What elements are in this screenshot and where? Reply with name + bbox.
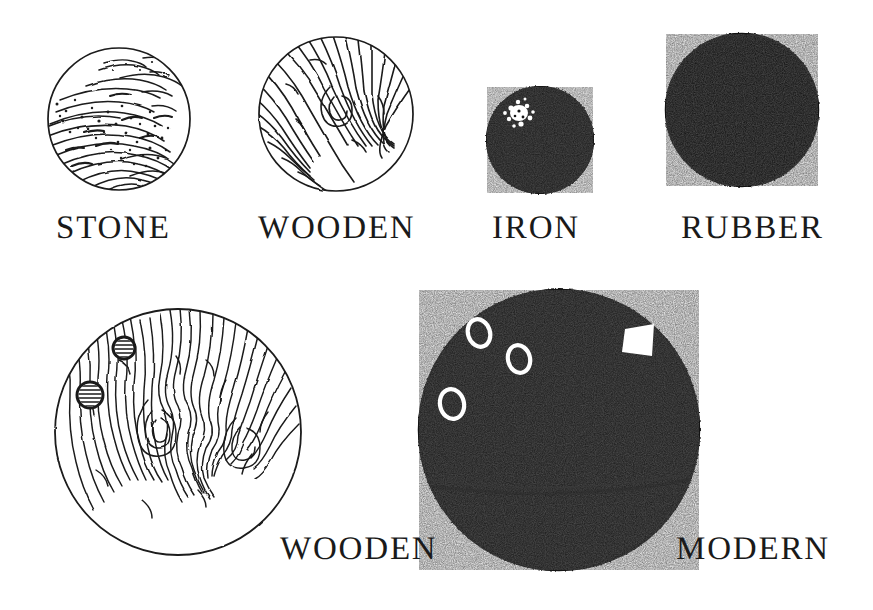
ball-label-wooden-top: WOODEN (258, 212, 416, 245)
ball-label-stone: STONE (56, 212, 171, 245)
illustration-plate: STONE WOODEN IRON RUBBER WOODEN MODERN (0, 0, 873, 610)
plate-drawing (0, 0, 873, 610)
ball-label-wooden-bottom: WOODEN (280, 533, 438, 566)
ball-wooden-bottom (55, 306, 301, 555)
ball-label-rubber: RUBBER (681, 212, 824, 245)
ball-label-iron: IRON (492, 212, 580, 245)
ball-stone (44, 48, 190, 192)
ball-label-modern: MODERN (676, 533, 830, 566)
modern-name-plate (622, 324, 654, 356)
ball-modern (418, 289, 700, 571)
ball-rubber (665, 33, 819, 187)
ball-wooden-top (250, 27, 413, 192)
ball-iron (486, 86, 594, 194)
finger-hole (76, 382, 104, 408)
finger-hole (112, 337, 136, 359)
